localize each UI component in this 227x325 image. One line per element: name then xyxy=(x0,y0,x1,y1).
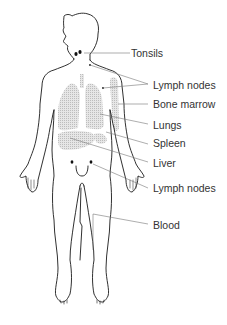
bone-marrow-region xyxy=(110,77,119,131)
trachea xyxy=(80,74,84,88)
label-spleen: Spleen xyxy=(153,137,186,149)
lymph-node-marker xyxy=(71,160,74,164)
label-liver: Liver xyxy=(153,157,176,169)
label-blood: Blood xyxy=(153,219,180,231)
tonsil-marker xyxy=(78,50,81,54)
left-lung xyxy=(58,84,80,131)
label-lymph-nodes-lower: Lymph nodes xyxy=(153,182,216,194)
label-lymph-nodes-upper: Lymph nodes xyxy=(153,79,216,91)
tonsil-marker xyxy=(74,52,77,56)
label-tonsils: Tonsils xyxy=(131,47,163,59)
body-diagram xyxy=(0,0,227,325)
right-lung xyxy=(85,84,104,130)
label-lungs: Lungs xyxy=(153,119,182,131)
label-bone-marrow: Bone marrow xyxy=(153,98,215,110)
body-outline xyxy=(20,13,144,304)
spleen xyxy=(94,133,107,143)
lymph-node-marker xyxy=(90,160,93,164)
